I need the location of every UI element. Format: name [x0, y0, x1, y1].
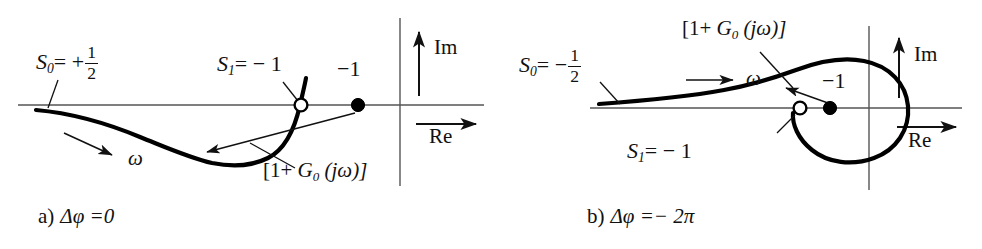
panel-b-graphics	[590, 26, 962, 190]
transfer-prefix-a: [1+	[263, 158, 298, 182]
omega-label-a: ω	[128, 148, 143, 169]
s0-relation-a: = +	[54, 49, 84, 74]
transfer-g-b: G	[717, 16, 732, 40]
transfer-prefix-b: [1+	[682, 16, 717, 40]
im-axis-label-b: Im	[914, 44, 937, 65]
s0-fraction-denominator-b: 2	[568, 68, 581, 86]
caption-prefix-a: a)	[38, 204, 54, 228]
caption-a: a)Δφ =0	[38, 206, 114, 227]
diagram-canvas	[0, 0, 982, 249]
nyquist-figure: S0= +12 S1= − 1 −1 ω [1+ G0 (jω)] Im Re …	[0, 0, 982, 249]
minus-one-label-a: −1	[337, 58, 360, 80]
minus-one-label-b: −1	[822, 70, 845, 92]
s0-symbol-b: S	[519, 52, 530, 77]
omega-arrow-a	[64, 133, 112, 155]
s1-open-circle-b	[794, 102, 807, 115]
minus-one-dot-b	[823, 101, 836, 114]
s1-open-circle-a	[295, 99, 308, 112]
re-axis-label-b: Re	[908, 130, 931, 151]
transfer-label-b: [1+ G0 (jω)]	[682, 18, 786, 41]
s1-value-a: = − 1	[235, 51, 282, 76]
s1-leader-a	[283, 82, 298, 101]
s1-subscript-a: 1	[228, 63, 235, 78]
minus-one-dot-a	[351, 98, 364, 111]
omega-label-b: ω	[746, 68, 761, 89]
s0-fraction-b: 12	[568, 47, 581, 86]
s0-fraction-numerator-b: 1	[568, 47, 581, 65]
s0-symbol-a: S	[36, 49, 47, 74]
s1-label-a: S1= − 1	[217, 53, 282, 78]
s1-symbol-b: S	[627, 138, 638, 163]
transfer-arg-b: (jω)]	[738, 16, 786, 40]
transfer-arg-a: (jω)]	[319, 158, 367, 182]
s1-value-b: = − 1	[645, 138, 692, 163]
transfer-leader-b	[760, 52, 793, 88]
s0-label-a: S0= +12	[36, 44, 99, 83]
s1-symbol-a: S	[217, 51, 228, 76]
caption-math-a: Δφ =0	[60, 204, 114, 228]
caption-prefix-b: b)	[587, 204, 605, 228]
s0-fraction-numerator-a: 1	[85, 44, 98, 62]
s0-fraction-denominator-a: 2	[85, 65, 98, 83]
re-axis-label-a: Re	[429, 126, 452, 147]
s1-label-b: S1= − 1	[627, 140, 692, 165]
caption-b: b)Δφ =− 2π	[587, 206, 694, 227]
transfer-label-a: [1+ G0 (jω)]	[263, 160, 367, 183]
im-axis-label-a: Im	[434, 37, 457, 58]
caption-math-b: Δφ =− 2π	[611, 204, 695, 228]
s0-relation-b: = −	[537, 52, 567, 77]
s0-label-b: S0= −12	[519, 47, 582, 86]
s0-leader-b	[600, 82, 620, 104]
s0-subscript-b: 0	[530, 64, 537, 79]
s0-subscript-a: 0	[47, 61, 54, 76]
s0-leader-a	[48, 80, 58, 108]
s0-fraction-a: 12	[85, 44, 98, 83]
transfer-g-a: G	[298, 158, 313, 182]
s1-subscript-b: 1	[638, 150, 645, 165]
